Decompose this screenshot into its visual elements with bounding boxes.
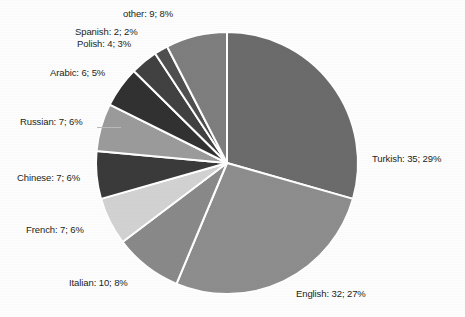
slice-label-other: other: 9; 8% — [123, 8, 173, 19]
slice-label-polish: Polish: 4; 3% — [77, 38, 131, 49]
slice-label-chinese: Chinese: 7; 6% — [17, 172, 80, 183]
slice-label-russian: Russian: 7; 6% — [20, 116, 83, 127]
slice-label-turkish: Turkish: 35; 29% — [372, 153, 441, 164]
slice-label-italian: Italian: 10; 8% — [69, 277, 128, 288]
slice-label-arabic: Arabic: 6; 5% — [50, 67, 105, 78]
pie-slice-group — [96, 32, 358, 294]
pie-chart-figure: Turkish: 35; 29% English: 32; 27% Italia… — [0, 0, 465, 317]
slice-label-spanish: Spanish: 2; 2% — [75, 26, 138, 37]
slice-label-english: English: 32; 27% — [296, 288, 366, 299]
leader-line-russian — [97, 127, 121, 128]
chart-plot-area: Turkish: 35; 29% English: 32; 27% Italia… — [0, 0, 465, 317]
slice-label-french: French: 7; 6% — [26, 224, 84, 235]
